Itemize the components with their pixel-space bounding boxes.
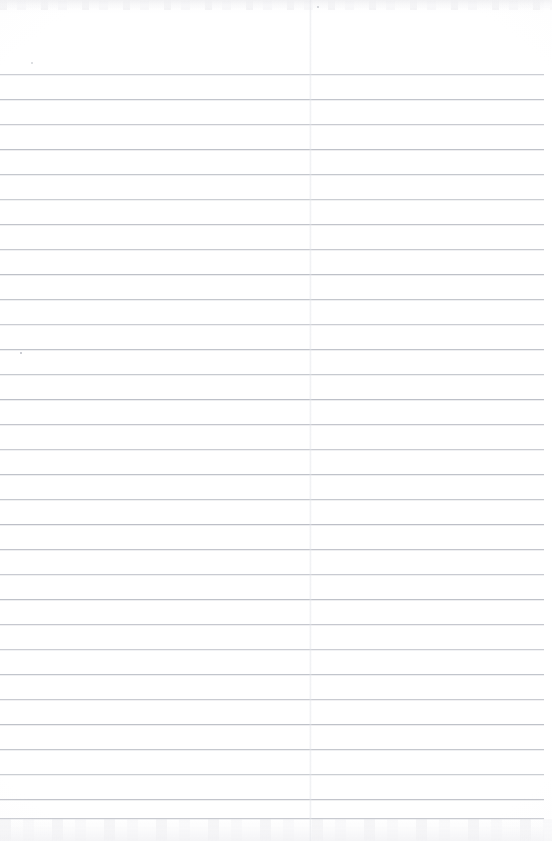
writing-area	[0, 74, 544, 819]
scanned-page	[0, 0, 552, 841]
